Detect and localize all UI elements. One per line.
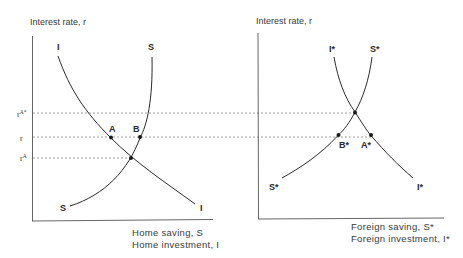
home-x-axis-label-saving: Home saving, S <box>132 227 203 238</box>
home-S-bottom-label: S <box>60 203 66 213</box>
tick-label-rAstar: rA* <box>17 109 27 119</box>
foreign-I-bottom-label: I* <box>417 182 424 192</box>
point-Astar-label: A* <box>361 140 371 150</box>
point-Astar-marker <box>369 133 373 137</box>
home-panel: Interest rate, r rA* r rA I S S I A B Ho… <box>17 17 219 250</box>
point-B-marker <box>138 135 142 139</box>
home-investment-curve <box>58 56 195 204</box>
foreign-investment-curve <box>334 57 413 178</box>
foreign-panel: Interest rate, r I* S* S* I* B* A* Forei… <box>256 16 450 244</box>
point-A-marker <box>109 136 113 140</box>
foreign-S-bottom-label: S* <box>269 182 279 192</box>
point-Bstar-label: B* <box>339 140 349 150</box>
home-S-top-label: S <box>148 42 154 52</box>
foreign-I-top-label: I* <box>329 44 336 54</box>
home-I-top-label: I <box>57 42 60 52</box>
point-Bstar-marker <box>337 133 341 137</box>
tick-label-rA: rA <box>20 153 27 163</box>
foreign-x-axis-label-investment: Foreign investment, I* <box>351 233 450 244</box>
saving-investment-diagram: Interest rate, r rA* r rA I S S I A B Ho… <box>0 0 463 258</box>
tick-label-r: r <box>20 134 23 143</box>
foreign-y-axis-label: Interest rate, r <box>256 16 312 26</box>
foreign-x-axis <box>258 218 444 219</box>
foreign-y-axis <box>258 33 259 219</box>
foreign-x-axis-label-saving: Foreign saving, S* <box>351 221 434 232</box>
home-autarky-equilibrium-marker <box>129 156 133 160</box>
home-x-axis-label-investment: Home investment, I <box>132 239 219 250</box>
point-B-label: B <box>133 124 140 134</box>
foreign-S-top-label: S* <box>370 44 380 54</box>
home-I-bottom-label: I <box>200 203 203 213</box>
foreign-autarky-equilibrium-marker <box>353 111 357 115</box>
home-y-axis-label: Interest rate, r <box>30 17 86 27</box>
point-A-label: A <box>109 124 116 134</box>
home-x-axis <box>32 220 213 222</box>
